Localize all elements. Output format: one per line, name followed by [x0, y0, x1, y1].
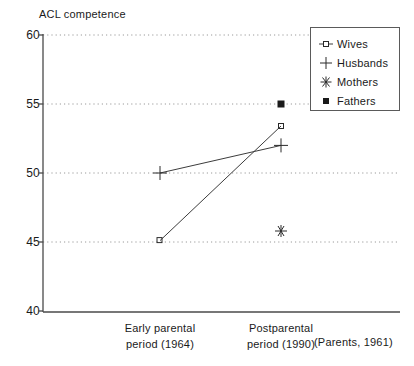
legend-item-wives: Wives — [318, 34, 399, 53]
legend-item-husbands: Husbands — [318, 53, 399, 72]
acl-competence-chart: ACL competence 60 55 50 45 40 — [0, 0, 414, 366]
chart-legend: Wives Husbands Mothers — [310, 27, 400, 111]
legend-label-husbands: Husbands — [337, 57, 388, 69]
plus-marker-icon — [318, 56, 334, 70]
data-point-fathers-post — [278, 101, 285, 108]
x-tick-label-early-parental: Early parental period (1964) — [110, 320, 210, 352]
x-tick-post-line1: Postparental — [231, 320, 331, 336]
series-wives — [157, 124, 284, 243]
x-tick-early-line2: period (1964) — [110, 336, 210, 352]
legend-item-mothers: Mothers — [318, 72, 399, 91]
data-point-mothers-post — [275, 225, 287, 237]
asterisk-marker-icon — [318, 75, 334, 89]
legend-label-wives: Wives — [337, 38, 368, 50]
legend-label-mothers: Mothers — [337, 76, 378, 88]
data-point-husbands-early — [153, 166, 167, 180]
open-square-marker-icon — [318, 37, 334, 51]
x-tick-early-line1: Early parental — [110, 320, 210, 336]
filled-square-marker-icon — [318, 94, 334, 108]
legend-label-fathers: Fathers — [337, 95, 376, 107]
legend-item-fathers: Fathers — [318, 91, 399, 110]
x-axis-source-note: (Parents, 1961) — [314, 336, 393, 348]
data-point-husbands-post — [274, 138, 288, 152]
series-husbands — [153, 138, 288, 180]
